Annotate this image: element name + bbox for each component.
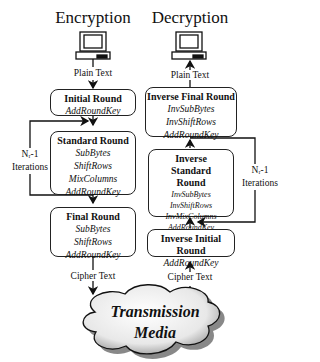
- transmission-media-label: Transmission Media: [90, 301, 220, 343]
- encryption-cipher-text-label: Cipher Text: [63, 271, 123, 281]
- computer-icon-decryption: [172, 32, 206, 59]
- encryption-plain-text-label: Plain Text: [63, 68, 123, 78]
- decryption-plain-text-label: Plain Text: [160, 70, 220, 80]
- inverse-standard-round-box: Inverse Standard Round InvSubBytes InvSh…: [148, 149, 234, 217]
- initial-round-box: Initial Round AddRoundKey: [50, 89, 136, 116]
- inverse-final-round-box: Inverse Final Round InvSubBytes InvShift…: [145, 87, 237, 137]
- final-round-box: Final Round SubBytes ShiftRows AddRoundK…: [50, 207, 136, 257]
- decryption-iterations-label: Nᵣ-1 Iterations: [238, 164, 280, 190]
- decryption-cipher-text-label: Cipher Text: [160, 272, 220, 282]
- inverse-initial-round-box: Inverse Initial Round AddRoundKey: [147, 229, 235, 257]
- standard-round-box: Standard Round SubBytes ShiftRows MixCol…: [50, 131, 136, 195]
- computer-icon-encryption: [76, 32, 110, 67]
- encryption-title: Encryption: [30, 8, 156, 28]
- decryption-title: Decryption: [140, 8, 240, 28]
